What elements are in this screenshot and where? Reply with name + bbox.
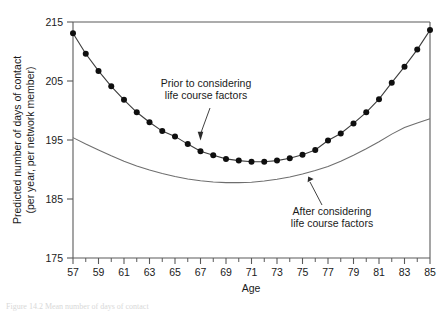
data-point [287,155,293,161]
x-tick-label-75: 75 [297,266,309,278]
data-point [147,119,153,125]
data-point [172,133,178,139]
data-point [121,97,127,103]
x-tick-label-79: 79 [348,266,360,278]
data-point [236,158,242,164]
data-point [198,148,204,154]
y-tick-label-215: 215 [45,16,63,28]
data-point [427,27,433,33]
data-point [83,51,89,57]
data-point [389,80,395,86]
data-point [274,158,280,164]
data-point [376,96,382,102]
y-tick-label-185: 185 [45,193,63,205]
prior-annotation-line2: life course factors [165,89,247,101]
x-tick-label-61: 61 [118,266,130,278]
x-tick-label-77: 77 [322,266,334,278]
data-point [351,120,357,126]
x-tick-label-57: 57 [67,266,79,278]
x-tick-label-85: 85 [424,266,436,278]
data-point [300,152,306,158]
data-point [108,83,114,89]
data-point [325,138,331,144]
data-point [70,30,76,36]
after-annotation-line2: life course factors [291,217,373,229]
prior-annotation-line1: Prior to considering [161,77,252,89]
data-point [402,64,408,70]
data-point [134,109,140,115]
x-tick-label-81: 81 [373,266,385,278]
data-point [312,147,318,153]
data-point [363,109,369,115]
x-tick-label-67: 67 [195,266,207,278]
data-point [249,159,255,165]
data-point [223,156,229,162]
y-tick-label-195: 195 [45,134,63,146]
data-point [96,68,102,74]
x-tick-label-71: 71 [246,266,258,278]
x-axis-tick-labels: 57 59 61 63 65 67 69 71 73 75 77 79 81 8… [67,266,436,278]
x-tick-label-73: 73 [271,266,283,278]
x-tick-label-83: 83 [399,266,411,278]
data-point [338,131,344,137]
x-tick-label-69: 69 [220,266,232,278]
figure-caption: Figure 14.2 Mean number of days of conta… [6,302,149,311]
y-axis-title-line1: Predicted number of days of contact [11,56,23,224]
data-point [414,47,420,53]
data-point [261,159,267,165]
x-axis-title: Age [242,282,261,294]
y-tick-label-205: 205 [45,75,63,87]
y-tick-label-175: 175 [45,252,63,264]
data-point [159,128,165,134]
y-axis-title-line2: (per year, per network member) [24,66,36,213]
data-point [210,152,216,158]
after-annotation-line1: After considering [293,205,372,217]
x-tick-label-59: 59 [93,266,105,278]
data-point [185,141,191,147]
x-tick-label-65: 65 [169,266,181,278]
x-tick-label-63: 63 [144,266,156,278]
